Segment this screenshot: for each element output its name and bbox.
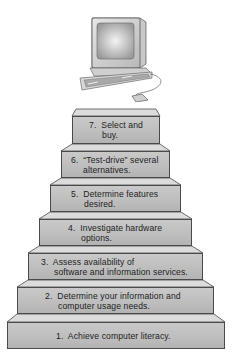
step-1-top — [7, 314, 225, 322]
step-7-line2: buy. — [102, 130, 118, 141]
step-6-line1: 6. “Test-drive” several — [71, 155, 158, 166]
step-4-top — [39, 212, 192, 219]
step-2-line2: computer usage needs. — [58, 301, 150, 312]
step-4-line1: 4. Investigate hardware — [68, 223, 162, 234]
step-5-line2: desired. — [84, 199, 115, 210]
step-5-line1: 5. Determine features — [71, 189, 158, 200]
step-2-line1: 2. Determine your information and — [45, 291, 181, 302]
step-6-top — [61, 144, 170, 151]
step-2-top — [17, 280, 214, 287]
step-6: 6. “Test-drive” several alternatives. — [61, 151, 170, 178]
staircase-diagram: 7. Select and buy. 6. “Test-drive” sever… — [0, 0, 235, 361]
step-7-line1: 7. Select and — [89, 120, 143, 131]
step-3-top — [28, 246, 203, 253]
step-3-line2: software and information services. — [54, 267, 188, 278]
step-2: 2. Determine your information and comput… — [17, 287, 214, 314]
step-1: 1. Achieve computer literacy. — [7, 322, 225, 349]
step-5: 5. Determine features desired. — [50, 185, 181, 212]
step-4-line2: options. — [81, 233, 112, 244]
step-7: 7. Select and buy. — [72, 116, 160, 144]
step-1-line1: 1. Achieve computer literacy. — [56, 331, 171, 342]
step-5-top — [50, 178, 181, 185]
step-4: 4. Investigate hardware options. — [39, 219, 192, 246]
step-6-line2: alternatives. — [83, 165, 131, 176]
step-3: 3. Assess availability of software and i… — [28, 253, 203, 280]
step-3-line1: 3. Assess availability of — [41, 257, 134, 268]
step-7-top — [72, 109, 160, 116]
